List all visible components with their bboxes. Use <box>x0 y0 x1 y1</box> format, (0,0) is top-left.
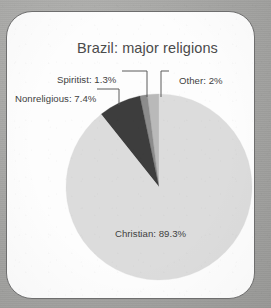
scanned-page: Brazil: major religions Spiritist: 1.3% … <box>0 0 271 308</box>
pie-label-other: Other: 2% <box>179 75 223 86</box>
pie-label-nonreligious: Nonreligious: 7.4% <box>15 93 96 104</box>
pie-label-christian: Christian: 89.3% <box>115 228 186 239</box>
chart-card: Brazil: major religions Spiritist: 1.3% … <box>6 11 255 299</box>
pie-chart <box>6 11 255 299</box>
leader-line-spiritist <box>122 71 147 97</box>
leader-line-nonreligious <box>97 89 119 105</box>
leader-line-other <box>161 71 169 97</box>
pie-label-spiritist: Spiritist: 1.3% <box>57 74 116 85</box>
pie-slice-christian[interactable] <box>66 94 252 280</box>
